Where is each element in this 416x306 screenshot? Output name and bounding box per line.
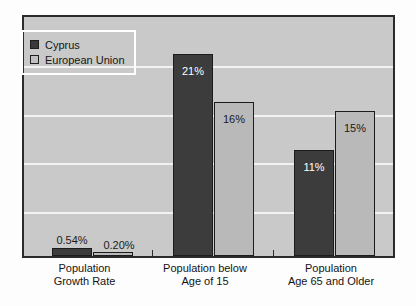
bar-value-eu-population-growth-rate: 0.20%	[100, 239, 138, 251]
bar-value-cyprus-population-age-65-and-older: 11%	[295, 161, 333, 173]
category-label-line1: Population	[27, 262, 142, 275]
category-label-population-below-age-15: Population below Age of 15	[145, 262, 265, 288]
bar-cyprus-population-growth-rate[interactable]: 0.54%	[52, 248, 92, 256]
bar-value-cyprus-population-growth-rate: 0.54%	[53, 234, 91, 246]
bar-value-eu-population-below-age-15: 16%	[215, 113, 253, 125]
legend-label-cyprus: Cyprus	[45, 39, 80, 51]
category-label-population-growth-rate: Population Growth Rate	[27, 262, 142, 288]
legend: Cyprus European Union	[21, 30, 136, 75]
bar-value-eu-population-age-65-and-older: 15%	[336, 122, 374, 134]
category-label-line2: Age 65 and Older	[266, 275, 396, 288]
category-label-line2: Growth Rate	[27, 275, 142, 288]
axis-tick-2	[273, 250, 274, 256]
bar-eu-population-growth-rate[interactable]: 0.20%	[93, 252, 133, 256]
legend-item-cyprus[interactable]: Cyprus	[30, 37, 125, 52]
category-label-line1: Population below	[145, 262, 265, 275]
legend-swatch-european-union-icon	[30, 55, 39, 64]
bar-chart: 0.54% 0.20% 21% 16% 11% 15% Cyprus	[0, 0, 416, 306]
legend-label-european-union: European Union	[45, 54, 125, 66]
bar-eu-population-age-65-and-older[interactable]: 15%	[335, 111, 375, 256]
legend-item-european-union[interactable]: European Union	[30, 52, 125, 67]
bar-value-cyprus-population-below-age-15: 21%	[174, 65, 212, 77]
category-label-line2: Age of 15	[145, 275, 265, 288]
axis-tick-1	[152, 250, 153, 256]
bar-eu-population-below-age-15[interactable]: 16%	[214, 102, 254, 256]
category-label-population-age-65-and-older: Population Age 65 and Older	[266, 262, 396, 288]
category-label-line1: Population	[266, 262, 396, 275]
bar-cyprus-population-below-age-15[interactable]: 21%	[173, 54, 213, 256]
legend-swatch-cyprus-icon	[30, 40, 39, 49]
bar-cyprus-population-age-65-and-older[interactable]: 11%	[294, 150, 334, 256]
